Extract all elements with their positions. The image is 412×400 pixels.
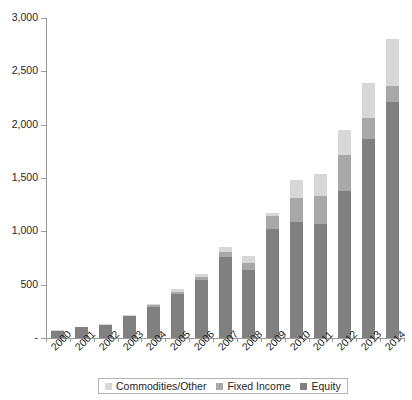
y-tick-label: 500 xyxy=(20,279,38,289)
bar-stack[interactable] xyxy=(290,180,303,338)
plot-area xyxy=(46,18,404,338)
legend-swatch-icon xyxy=(216,383,223,390)
stacked-bar-chart: -5001,0001,5002,0002,5003,000 2000200120… xyxy=(0,0,412,400)
legend-item[interactable]: Equity xyxy=(300,380,340,392)
bar-segment-fixed-income xyxy=(242,263,255,270)
legend-item[interactable]: Fixed Income xyxy=(216,380,290,392)
bar-segment-equity xyxy=(242,270,255,338)
bar-segment-fixed-income xyxy=(266,216,279,229)
bar-segment-fixed-income xyxy=(386,86,399,103)
y-tick-label: 2,000 xyxy=(12,119,38,129)
bar-segment-fixed-income xyxy=(290,198,303,221)
bar-stack[interactable] xyxy=(266,213,279,338)
legend-label: Commodities/Other xyxy=(116,380,206,392)
bar-segment-fixed-income xyxy=(314,196,327,224)
bar-segment-equity xyxy=(219,257,232,338)
bar-segment-commodities xyxy=(290,180,303,199)
bar-segment-fixed-income xyxy=(362,118,375,138)
bar-segment-equity xyxy=(386,102,399,338)
bar-stack[interactable] xyxy=(386,39,399,338)
bar-segment-commodities xyxy=(242,256,255,263)
chart-legend: Commodities/OtherFixed IncomeEquity xyxy=(98,378,348,394)
legend-label: Fixed Income xyxy=(227,380,290,392)
y-tick-label: 1,000 xyxy=(12,225,38,235)
legend-item[interactable]: Commodities/Other xyxy=(105,380,206,392)
bar-segment-equity xyxy=(362,139,375,338)
bar-segment-equity xyxy=(338,191,351,338)
bar-segment-equity xyxy=(266,229,279,338)
bar-stack[interactable] xyxy=(338,130,351,338)
legend-label: Equity xyxy=(311,380,340,392)
bar-stack[interactable] xyxy=(362,83,375,338)
bar-segment-fixed-income xyxy=(338,155,351,191)
y-tick-label: 2,500 xyxy=(12,65,38,75)
x-tick xyxy=(46,338,47,342)
bar-stack[interactable] xyxy=(219,247,232,338)
legend-swatch-icon xyxy=(105,383,112,390)
bar-segment-commodities xyxy=(362,83,375,118)
bar-segment-equity xyxy=(314,224,327,338)
y-tick-label: 3,000 xyxy=(12,12,38,22)
bar-segment-commodities xyxy=(338,130,351,155)
legend-swatch-icon xyxy=(300,383,307,390)
bar-segment-equity xyxy=(290,222,303,338)
bar-stack[interactable] xyxy=(314,174,327,338)
bar-segment-commodities xyxy=(314,174,327,196)
y-tick-label: - xyxy=(35,332,39,342)
y-tick-label: 1,500 xyxy=(12,172,38,182)
bar-segment-commodities xyxy=(386,39,399,86)
bar-stack[interactable] xyxy=(242,256,255,338)
